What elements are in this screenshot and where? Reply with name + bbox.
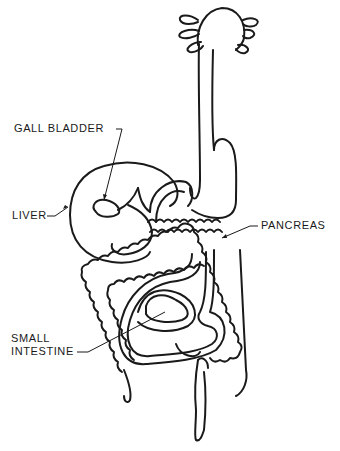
esophagus xyxy=(199,44,214,180)
stomach xyxy=(190,139,236,218)
label-small-intestine-line1: SMALL xyxy=(11,332,50,345)
pancreas-leader xyxy=(222,226,258,238)
label-gall-bladder: GALL BLADDER xyxy=(14,122,104,135)
pancreas xyxy=(148,220,222,233)
large-intestine xyxy=(82,224,247,397)
label-pancreas: PANCREAS xyxy=(261,219,326,232)
rectum xyxy=(195,358,208,440)
duodenum xyxy=(150,181,192,222)
digestive-system-diagram: GALL BLADDER LIVER PANCREAS SMALL INTEST… xyxy=(0,0,340,451)
label-liver: LIVER xyxy=(12,209,47,222)
label-small-intestine-line2: INTESTINE xyxy=(11,345,74,358)
mouth-salivary-glands xyxy=(179,8,258,53)
leader-lines xyxy=(47,129,258,352)
appendix xyxy=(124,370,131,402)
liver-leader xyxy=(47,207,68,216)
small-intestine xyxy=(119,250,224,364)
